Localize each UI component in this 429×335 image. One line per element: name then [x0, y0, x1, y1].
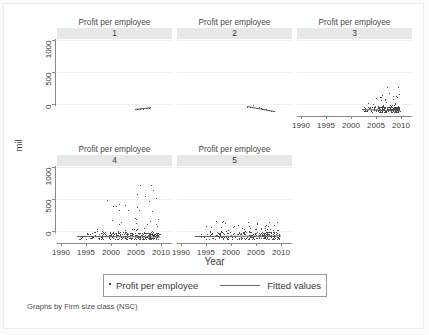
data-point [241, 234, 242, 235]
gridline-1000 [57, 40, 172, 41]
data-point [222, 237, 223, 238]
data-point [110, 239, 111, 240]
data-point [156, 233, 157, 234]
data-point [256, 229, 257, 230]
data-point [223, 221, 224, 222]
data-point [125, 232, 126, 233]
x-tick-2005 [136, 243, 137, 246]
data-point [152, 231, 153, 232]
data-point [228, 230, 229, 231]
data-point [266, 239, 267, 240]
data-point [261, 238, 262, 239]
data-point [399, 94, 400, 95]
data-point [149, 201, 150, 202]
data-point [86, 239, 87, 240]
panel-1-plot-area [57, 39, 172, 116]
data-point [120, 232, 121, 233]
x-tick-1990 [61, 243, 62, 246]
data-point [136, 239, 137, 240]
data-point [125, 205, 126, 206]
data-point [143, 234, 144, 235]
data-point [381, 97, 382, 98]
fitted-line-icon [220, 285, 260, 286]
data-point [253, 234, 254, 235]
data-point [383, 105, 384, 106]
data-point [378, 111, 379, 112]
data-point [393, 99, 394, 100]
stata-graph-figure: mil Profit per employee 1 1000 500 0 Pro… [0, 0, 429, 335]
data-point [234, 233, 235, 234]
data-point [225, 223, 226, 224]
data-point [266, 225, 267, 226]
data-point [368, 103, 369, 104]
data-point [279, 239, 280, 240]
figure-footnote: Graphs by Firm size class (NSC) [27, 302, 138, 311]
data-point [97, 229, 98, 230]
data-point [245, 234, 246, 235]
data-point [275, 238, 276, 239]
data-point [371, 110, 372, 111]
data-point [107, 200, 108, 201]
data-point [147, 224, 148, 225]
data-point [92, 238, 93, 239]
data-point [269, 232, 270, 233]
x-tick-2010 [281, 243, 282, 246]
data-point [99, 234, 100, 235]
gridline-500 [297, 72, 412, 73]
data-point [249, 238, 250, 239]
data-point [210, 232, 211, 233]
panel-2-title: Profit per employee [177, 17, 292, 27]
data-point [113, 206, 114, 207]
data-point [228, 233, 229, 234]
panel-1-strip-label: 1 [57, 28, 172, 39]
data-point [277, 230, 278, 231]
data-point [101, 237, 102, 238]
data-point [99, 239, 100, 240]
data-point [394, 105, 395, 106]
data-point [140, 185, 141, 186]
data-point [134, 229, 135, 230]
panel-1: Profit per employee 1 [57, 28, 172, 116]
data-point [116, 237, 117, 238]
data-point [272, 239, 273, 240]
data-point [112, 233, 113, 234]
data-point [224, 237, 225, 238]
data-point [207, 234, 208, 235]
data-point [269, 222, 270, 223]
data-point [158, 239, 159, 240]
data-point [125, 230, 126, 231]
data-point [119, 204, 120, 205]
x-tick-2010 [161, 243, 162, 246]
data-point [101, 239, 102, 240]
data-point [228, 239, 229, 240]
x-tick-2005 [256, 243, 257, 246]
x-tick-2000 [231, 243, 232, 246]
data-point [133, 234, 134, 235]
data-point [131, 238, 132, 239]
y-tick-label-0: 0 [44, 105, 53, 153]
data-point [253, 105, 254, 106]
legend-entry-line: Fitted values [220, 280, 321, 291]
data-point [153, 239, 154, 240]
data-point [367, 111, 368, 112]
data-point [394, 107, 395, 108]
data-point [247, 237, 248, 238]
data-point [370, 107, 371, 108]
data-point [274, 232, 275, 233]
data-point [206, 239, 207, 240]
data-point [242, 228, 243, 229]
data-point [274, 225, 275, 226]
data-point [238, 225, 239, 226]
data-point [265, 228, 266, 229]
data-point [373, 104, 374, 105]
data-point [156, 198, 157, 199]
data-point [232, 237, 233, 238]
data-point [95, 232, 96, 233]
data-point [257, 223, 258, 224]
data-point [278, 237, 279, 238]
data-point [244, 232, 245, 233]
data-point [124, 234, 125, 235]
data-point [398, 112, 399, 113]
panel-4-plot-area [57, 166, 172, 243]
data-point [128, 210, 129, 211]
